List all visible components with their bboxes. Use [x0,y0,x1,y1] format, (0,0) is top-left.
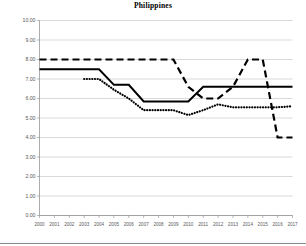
svg-text:10.00: 10.00 [23,17,36,23]
svg-text:8.00: 8.00 [25,56,35,62]
svg-text:2007: 2007 [139,222,150,227]
svg-text:2010: 2010 [183,222,194,227]
svg-text:3.00: 3.00 [25,154,35,160]
gridlines [40,21,293,216]
svg-text:9.00: 9.00 [25,37,35,43]
svg-text:2000: 2000 [34,222,45,227]
svg-text:2005: 2005 [109,222,120,227]
svg-text:2015: 2015 [258,222,269,227]
svg-text:2001: 2001 [49,222,60,227]
svg-text:2012: 2012 [213,222,224,227]
y-tick-marks [37,21,40,216]
bottom-divider [0,243,306,244]
svg-text:2017: 2017 [287,222,298,227]
svg-text:2004: 2004 [94,222,105,227]
svg-text:5.00: 5.00 [25,115,35,121]
series-solid-series [40,69,293,101]
line-chart-svg: 0.001.002.003.004.005.006.007.008.009.00… [0,0,306,246]
x-tick-marks [40,216,293,219]
x-axis-labels: 2000200120022003200420052006200720082009… [34,222,298,227]
y-axis-labels: 0.001.002.003.004.005.006.007.008.009.00… [23,17,36,218]
svg-text:2002: 2002 [64,222,75,227]
chart-container: Philippines 0.001.002.003.004.005.006.00… [0,0,306,246]
svg-text:1.00: 1.00 [25,193,35,199]
svg-text:2014: 2014 [243,222,254,227]
svg-text:6.00: 6.00 [25,95,35,101]
svg-text:2006: 2006 [124,222,135,227]
svg-text:2009: 2009 [168,222,179,227]
svg-text:2008: 2008 [153,222,164,227]
svg-text:2013: 2013 [228,222,239,227]
svg-text:4.00: 4.00 [25,134,35,140]
svg-text:2003: 2003 [79,222,90,227]
svg-text:2.00: 2.00 [25,173,35,179]
svg-text:2011: 2011 [198,222,208,227]
svg-text:7.00: 7.00 [25,76,35,82]
svg-text:2016: 2016 [273,222,284,227]
svg-text:0.00: 0.00 [25,212,35,218]
plot-area: 0.001.002.003.004.005.006.007.008.009.00… [0,0,306,246]
